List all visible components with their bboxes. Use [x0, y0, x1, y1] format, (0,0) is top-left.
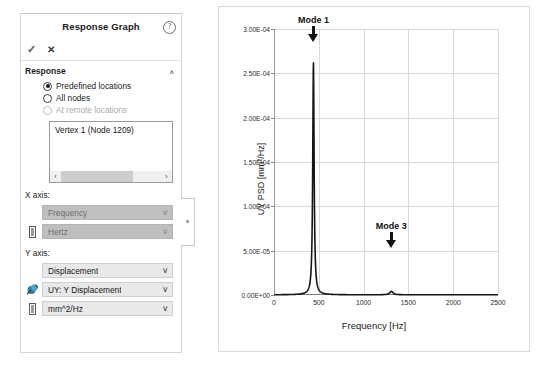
scroll-right-icon[interactable]: ›: [161, 173, 172, 180]
panel-titlebar: Response Graph ?: [21, 14, 181, 39]
page-title: Response Graph: [62, 21, 139, 32]
radio-icon: [43, 106, 52, 115]
y-axis-unit-row: mm^2/Hz ∨: [21, 299, 181, 318]
y-tick-label: 0.00E+00: [242, 292, 270, 299]
list-item[interactable]: Vertex 1 (Node 1209): [50, 122, 172, 135]
radio-icon: [43, 82, 52, 91]
locations-listbox[interactable]: Vertex 1 (Node 1209) ‹ ›: [49, 121, 173, 183]
accept-button[interactable]: ✓: [27, 44, 36, 55]
scroll-left-icon[interactable]: ‹: [50, 173, 61, 180]
handle-dot-icon: [186, 220, 189, 223]
response-graph-chart: UY PSD [mm²/Hz] Frequency [Hz] 050010001…: [218, 6, 530, 352]
x-tick-label: 1500: [401, 299, 416, 306]
select-value: UY: Y Displacement: [48, 285, 121, 295]
panel-toolbar: ✓ ✕: [21, 39, 181, 61]
plot-area: 050010001500200025000.00E+005.00E-051.00…: [274, 29, 498, 295]
y-tick-label: 5.00E-05: [243, 247, 270, 254]
psd-curve: [274, 29, 498, 295]
annotation-label: Mode 3: [363, 221, 419, 231]
chevron-down-icon[interactable]: ∨: [162, 266, 169, 275]
x-axis-label: X axis:: [21, 183, 181, 203]
radio-predefined-locations[interactable]: Predefined locations: [21, 80, 181, 92]
radio-label: At remote locations: [56, 105, 127, 115]
unit-icon: [25, 302, 39, 316]
scrollbar-thumb[interactable]: [61, 171, 133, 182]
panel-resize-handle[interactable]: [181, 198, 195, 246]
y-axis-quantity-row: Displacement ∨: [21, 261, 181, 280]
y-tick-label: 1.00E-04: [243, 203, 270, 210]
question-mark-icon[interactable]: ?: [163, 21, 176, 34]
response-section-label: Response: [25, 66, 66, 76]
scrollbar-track[interactable]: [61, 171, 161, 182]
x-axis-unit-row: Hertz ∨: [21, 222, 181, 241]
radio-at-remote-locations: At remote locations: [21, 104, 181, 116]
gridline-vertical: [498, 29, 499, 295]
down-arrow-icon: [308, 26, 319, 42]
x-tick-label: 2500: [490, 299, 505, 306]
annotation-mode-3: Mode 3: [363, 221, 419, 248]
chevron-down-icon[interactable]: ∨: [162, 304, 169, 313]
radio-all-nodes[interactable]: All nodes: [21, 92, 181, 104]
y-tick-label: 2.00E-04: [243, 114, 270, 121]
select-value: Displacement: [48, 266, 98, 276]
x-axis-quantity-select[interactable]: Frequency ∨: [42, 205, 173, 220]
x-tick-label: 2000: [446, 299, 461, 306]
x-tick-label: 500: [313, 299, 324, 306]
response-graph-details-panel: Response Graph ? ✓ ✕ Response ∧ Predefin…: [20, 13, 182, 353]
radio-label: Predefined locations: [56, 81, 131, 91]
chevron-down-icon[interactable]: ∨: [162, 227, 169, 236]
y-tick-label: 2.50E-04: [243, 70, 270, 77]
y-axis-component-select[interactable]: UY: Y Displacement ∨: [42, 282, 173, 297]
chevron-up-icon[interactable]: ∧: [169, 67, 175, 74]
response-section-header[interactable]: Response ∧: [21, 61, 181, 80]
chevron-down-icon[interactable]: ∨: [162, 208, 169, 217]
x-tick-label: 0: [272, 299, 276, 306]
cancel-button[interactable]: ✕: [47, 45, 55, 55]
x-tick-label: 1000: [356, 299, 371, 306]
y-axis-quantity-select[interactable]: Displacement ∨: [42, 263, 173, 278]
y-axis-label: Y axis:: [21, 241, 181, 261]
vector-component-icon: [25, 283, 39, 297]
unit-icon: [25, 225, 39, 239]
horizontal-scrollbar[interactable]: ‹ ›: [50, 171, 172, 182]
y-tick-mark: [271, 295, 274, 296]
annotation-label: Mode 1: [285, 15, 341, 25]
y-tick-label: 3.00E-04: [243, 26, 270, 33]
radio-icon: [43, 94, 52, 103]
x-axis-unit-select[interactable]: Hertz ∨: [42, 224, 173, 239]
y-axis-unit-select[interactable]: mm^2/Hz ∨: [42, 301, 173, 316]
annotation-mode-1: Mode 1: [285, 15, 341, 42]
select-value: mm^2/Hz: [48, 304, 83, 314]
select-value: Hertz: [48, 227, 68, 237]
down-arrow-icon: [386, 232, 397, 248]
unit-icon-svg: [27, 303, 38, 315]
x-axis-title: Frequency [Hz]: [219, 320, 529, 331]
vector-component-icon-svg: [26, 283, 39, 296]
unit-icon-svg: [27, 226, 38, 238]
chevron-down-icon[interactable]: ∨: [162, 285, 169, 294]
psd-curve-path: [274, 63, 498, 295]
select-value: Frequency: [48, 208, 87, 218]
y-tick-label: 1.50E-04: [243, 159, 270, 166]
x-axis-quantity-row: Frequency ∨: [21, 203, 181, 222]
y-axis-component-row: UY: Y Displacement ∨: [21, 280, 181, 299]
radio-label: All nodes: [56, 93, 90, 103]
